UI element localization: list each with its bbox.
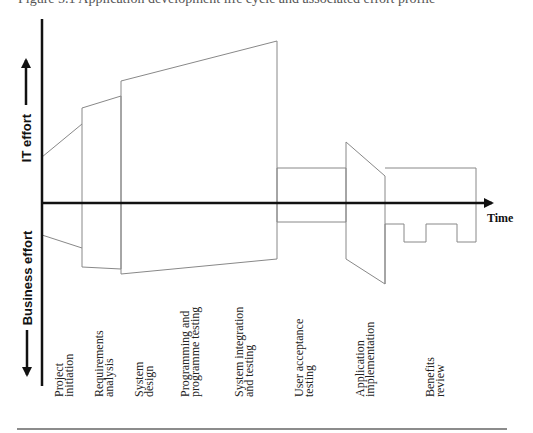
it-effort-label: IT effort [19, 113, 34, 162]
phase-labels: Project initiation Requirements analysis… [52, 307, 447, 397]
svg-text:and testing: and testing [242, 345, 256, 397]
shape-project-initiation-top [42, 124, 82, 157]
business-effort-label: Business effort [20, 230, 35, 325]
svg-text:programme testing: programme testing [188, 307, 202, 397]
time-axis-label: Time [487, 211, 514, 225]
shape-requirements-analysis [82, 96, 121, 269]
svg-text:initiation: initiation [62, 354, 76, 397]
svg-text:design: design [142, 366, 156, 397]
phase-label-user-acceptance: User acceptance testing [292, 319, 316, 397]
phase-label-system-integration: System integration and testing [232, 307, 256, 397]
svg-text:analysis: analysis [102, 358, 116, 397]
shape-application-implementation [346, 142, 385, 284]
phase-label-benefits-review: Benefits review [423, 357, 447, 397]
phase-label-requirements-analysis: Requirements analysis [92, 330, 116, 397]
shape-design-programming-integration [121, 41, 277, 274]
effort-profile-shapes [42, 41, 476, 284]
shape-user-acceptance-testing [277, 168, 346, 222]
shape-benefits-review [385, 168, 476, 284]
svg-text:testing: testing [302, 365, 316, 397]
phase-label-programming: Programming and programme testing [178, 307, 202, 397]
phase-label-project-initiation: Project initiation [52, 354, 76, 397]
phase-label-application-implementation: Application implementation [353, 322, 377, 397]
phase-label-system-design: System design [132, 361, 156, 397]
shape-project-initiation-bottom [42, 235, 82, 248]
svg-text:implementation: implementation [363, 322, 377, 397]
effort-profile-diagram: Time IT effort Business effort Project i… [0, 0, 533, 433]
svg-text:review: review [433, 364, 447, 397]
